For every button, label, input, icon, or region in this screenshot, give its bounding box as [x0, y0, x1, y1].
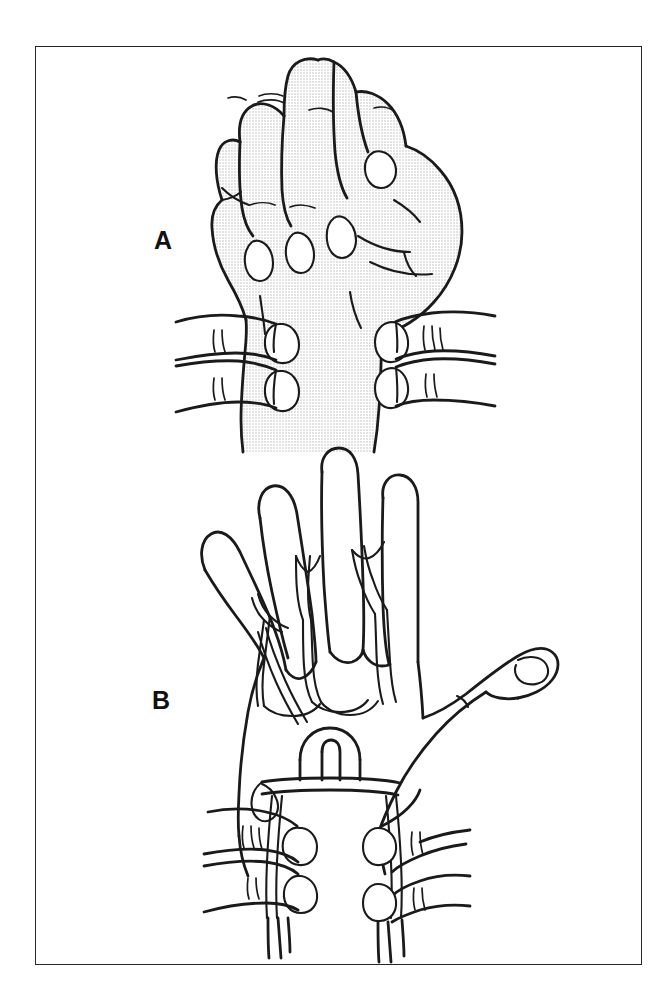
figure-root: A B	[0, 0, 671, 992]
panel-a-label: A	[154, 228, 172, 253]
panel-b-label: B	[152, 688, 170, 713]
plate-frame-border	[35, 46, 642, 965]
